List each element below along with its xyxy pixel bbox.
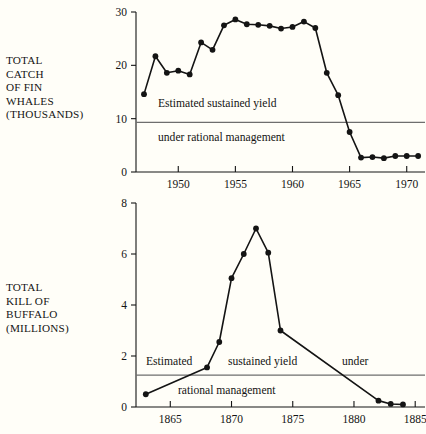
data-point-marker <box>221 22 227 28</box>
data-point-marker <box>415 153 421 159</box>
y-tick-label: 0 <box>121 401 127 413</box>
sustained-yield-annotation: under rational management <box>158 131 286 144</box>
data-point-marker <box>241 251 247 257</box>
data-point-marker <box>216 339 222 345</box>
data-point-marker <box>347 129 353 135</box>
x-tick-label: 1955 <box>224 178 247 190</box>
data-point-marker <box>290 24 296 30</box>
data-point-marker <box>255 22 261 28</box>
data-point-marker <box>324 70 330 76</box>
x-tick-label: 1865 <box>159 413 182 425</box>
sustained-yield-annotation: sustained yield <box>228 355 297 368</box>
data-point-marker <box>404 153 410 159</box>
x-tick-label: 1960 <box>281 178 304 190</box>
x-tick-label: 1880 <box>342 413 365 425</box>
data-point-marker <box>141 91 147 97</box>
x-tick-label: 1885 <box>404 413 426 425</box>
y-tick-label: 6 <box>121 248 127 260</box>
data-point-marker <box>278 26 284 32</box>
data-point-marker <box>175 68 181 74</box>
data-point-marker <box>143 391 149 397</box>
data-point-marker <box>164 70 170 76</box>
data-point-marker <box>210 47 216 53</box>
data-point-marker <box>153 53 159 59</box>
data-point-marker <box>358 155 364 161</box>
buffalo-plot: 0246818651870187518801885Estimatedsustai… <box>104 196 426 434</box>
x-tick-label: 1950 <box>167 178 190 190</box>
data-point-marker <box>253 226 259 232</box>
data-point-marker <box>388 401 394 407</box>
y-tick-label: 30 <box>116 6 128 18</box>
sustained-yield-annotation: under <box>342 355 369 368</box>
y-tick-label: 0 <box>121 166 127 178</box>
data-point-marker <box>278 328 284 334</box>
y-tick-label: 20 <box>116 59 128 71</box>
fin-whales-chart: 010203019501955196019651970Estimated sus… <box>104 0 426 196</box>
x-tick-label: 1965 <box>338 178 361 190</box>
data-point-marker <box>381 155 387 161</box>
fin-whales-plot: 010203019501955196019651970Estimated sus… <box>104 0 426 196</box>
data-point-marker <box>400 402 406 408</box>
data-point-marker <box>229 275 235 281</box>
buffalo-y-axis-title: TOTAL KILL OF BUFFALO (MILLIONS) <box>6 281 69 335</box>
data-point-marker <box>198 40 204 46</box>
data-point-marker <box>370 154 376 160</box>
sustained-yield-annotation: Estimated sustained yield <box>158 97 277 110</box>
sustained-yield-annotation: rational management <box>178 384 276 397</box>
data-point-marker <box>392 153 398 159</box>
whales-y-axis-title: TOTAL CATCH OF FIN WHALES (THOUSANDS) <box>6 54 83 122</box>
data-point-marker <box>187 72 193 78</box>
y-tick-label: 4 <box>121 299 127 311</box>
y-tick-label: 2 <box>121 350 127 362</box>
data-point-marker <box>204 365 210 371</box>
data-point-marker <box>267 23 273 29</box>
y-tick-label: 10 <box>116 113 128 125</box>
data-point-marker <box>312 25 318 31</box>
y-tick-label: 8 <box>121 197 127 209</box>
data-series-line <box>146 229 403 405</box>
x-tick-label: 1875 <box>281 413 304 425</box>
buffalo-chart: 0246818651870187518801885Estimatedsustai… <box>104 196 426 434</box>
data-point-marker <box>335 92 341 98</box>
x-tick-label: 1970 <box>395 178 418 190</box>
data-point-marker <box>265 250 271 256</box>
data-point-marker <box>301 19 307 25</box>
data-point-marker <box>376 398 382 404</box>
data-point-marker <box>232 17 238 23</box>
sustained-yield-annotation: Estimated <box>146 355 193 368</box>
x-tick-label: 1870 <box>220 413 243 425</box>
two-panel-line-chart-figure: TOTAL CATCH OF FIN WHALES (THOUSANDS) 01… <box>0 0 426 434</box>
data-point-marker <box>244 21 250 27</box>
